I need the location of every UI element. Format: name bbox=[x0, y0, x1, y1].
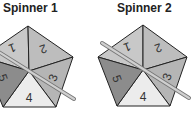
spinner-2-label-4: 4 bbox=[140, 90, 147, 104]
spinners-diagram: 1 2 3 4 5 1 2 3 4 5 bbox=[0, 0, 195, 113]
spinner-1-label-4: 4 bbox=[26, 91, 33, 105]
spinner-2: 1 2 3 4 5 bbox=[98, 25, 189, 106]
spinner-1: 1 2 3 4 5 bbox=[0, 26, 74, 107]
